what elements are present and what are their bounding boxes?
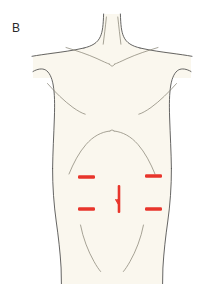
marking-midline-incision (118, 185, 121, 213)
marking-upper-right-port (145, 174, 162, 177)
marking-lower-right-port (145, 207, 162, 210)
shoulder-block-fill (33, 36, 191, 78)
figure-panel: B (0, 0, 224, 284)
marking-upper-left-port (78, 175, 95, 178)
arm-contour-right (169, 69, 191, 169)
arm-contour-left (33, 69, 55, 169)
torso-illustration (0, 0, 224, 284)
torso-body (33, 14, 191, 284)
marking-lower-left-port (78, 207, 95, 210)
